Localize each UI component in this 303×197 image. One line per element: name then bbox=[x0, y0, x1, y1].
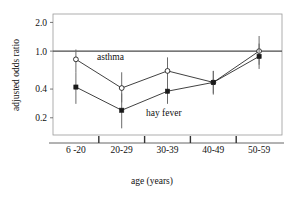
x-tick-label: 40-49 bbox=[202, 145, 224, 155]
data-point bbox=[165, 69, 170, 74]
series-label-asthma: asthma bbox=[97, 52, 125, 62]
x-axis-title: age (years) bbox=[131, 176, 173, 187]
data-point bbox=[165, 89, 169, 93]
y-tick-label: 0.2 bbox=[35, 113, 47, 123]
chart-background bbox=[0, 0, 303, 197]
y-tick-label: 1.0 bbox=[35, 47, 47, 57]
x-tick-label: 20-29 bbox=[111, 145, 133, 155]
x-tick-label: 30-39 bbox=[156, 145, 178, 155]
data-point bbox=[211, 80, 215, 84]
data-point bbox=[257, 54, 261, 58]
x-tick-label: 6 -20 bbox=[66, 145, 86, 155]
data-point bbox=[74, 57, 79, 62]
chart-figure: 2.01.00.40.2 6 -2020-2930-3940-4950-59 a… bbox=[0, 0, 303, 197]
data-point bbox=[119, 86, 124, 91]
y-tick-label: 2.0 bbox=[35, 18, 47, 28]
data-point bbox=[74, 85, 78, 89]
data-point bbox=[120, 108, 124, 112]
y-tick-label: 0.4 bbox=[35, 84, 47, 94]
series-label-hay-fever: hay fever bbox=[146, 108, 182, 118]
adjusted-odds-ratio-chart: 2.01.00.40.2 6 -2020-2930-3940-4950-59 a… bbox=[0, 0, 303, 197]
x-tick-label: 50-59 bbox=[248, 145, 270, 155]
y-axis-title: adjusted odds ratio bbox=[11, 39, 21, 111]
